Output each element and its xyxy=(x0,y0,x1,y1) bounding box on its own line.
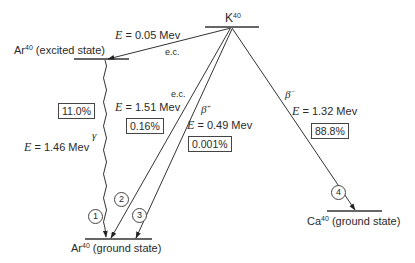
transition-number-3: 3 xyxy=(132,208,147,223)
ec-ground-energy-label: E = 1.51 Mev xyxy=(115,101,180,113)
gamma-branch-box: 11.0% xyxy=(58,103,95,119)
beta-minus-branch-box: 88.8% xyxy=(311,123,349,139)
ec-excited-energy-label: E = 0.05 Mev xyxy=(115,29,180,41)
k40-label: K40 xyxy=(225,12,241,24)
beta-plus-mode-label: β+ xyxy=(201,103,211,115)
gamma-energy-label: E = 1.46 Mev xyxy=(24,141,89,153)
transition-number-1: 1 xyxy=(88,209,103,224)
transition-number-4: 4 xyxy=(331,185,346,200)
beta-plus-branch-box: 0.001% xyxy=(188,136,232,152)
ec-ground-mode-label: e.c. xyxy=(171,88,186,100)
transition-number-2: 2 xyxy=(114,192,129,207)
ar40-ground-label: Ar40 (ground state) xyxy=(71,242,161,254)
ca40-ground-label: Ca40 (ground state) xyxy=(307,215,400,227)
ar40-excited-label: Ar40 (excited state) xyxy=(14,44,105,56)
gamma-mode-label: γ xyxy=(92,129,96,141)
gamma-wavy-arrow xyxy=(104,60,107,237)
beta-plus-energy-label: E = 0.49 Mev xyxy=(187,119,252,131)
beta-minus-mode-label: β− xyxy=(285,88,295,100)
ec-ground-branch-box: 0.16% xyxy=(126,118,164,134)
ec-excited-mode-label: e.c. xyxy=(165,46,180,58)
beta-minus-energy-label: E = 1.32 Mev xyxy=(292,105,357,117)
